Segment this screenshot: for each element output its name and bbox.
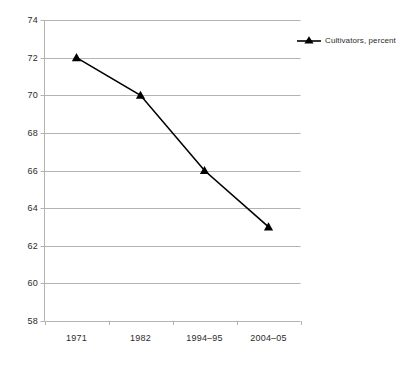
legend-marker-cultivators — [297, 36, 321, 43]
chart-canvas — [0, 0, 407, 366]
x-axis-tick-label: 1994–95 — [173, 333, 237, 343]
y-axis-tick-label: 72 — [12, 53, 38, 63]
y-tick-group — [41, 21, 45, 322]
legend-label-cultivators: Cultivators, percent — [325, 36, 396, 45]
y-axis-tick-label: 66 — [12, 166, 38, 176]
x-axis-tick-label: 1982 — [109, 333, 173, 343]
series-line-cultivators — [77, 58, 269, 227]
y-axis-tick-label: 64 — [12, 203, 38, 213]
y-axis-tick-label: 68 — [12, 128, 38, 138]
y-axis-tick-label: 74 — [12, 15, 38, 25]
y-axis-tick-label: 70 — [12, 90, 38, 100]
line-chart-figure: Cultivators, percent 586062646668707274 … — [0, 0, 407, 366]
data-point-marker — [136, 91, 145, 99]
y-axis-tick-label: 62 — [12, 241, 38, 251]
x-axis-tick-label: 1971 — [45, 333, 109, 343]
x-axis-tick-label: 2004–05 — [237, 333, 301, 343]
y-axis-tick-label: 60 — [12, 278, 38, 288]
y-axis-tick-label: 58 — [12, 316, 38, 326]
data-point-marker — [72, 53, 81, 61]
gridline-group — [45, 21, 301, 322]
